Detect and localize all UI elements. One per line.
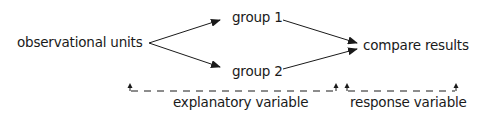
node-group-2: group 2 [232,63,283,79]
arrow-units-to-group2 [149,43,220,67]
node-compare-results: compare results [363,37,469,53]
arrow-units-to-group1 [149,20,220,43]
arrow-group2-to-compare [283,49,357,69]
label-explanatory-variable: explanatory variable [173,94,308,110]
response-bracket [345,83,459,91]
arrow-group1-to-compare [283,20,357,43]
node-observational-units: observational units [17,34,143,50]
label-response-variable: response variable [350,94,467,110]
explanatory-bracket [128,83,339,91]
node-group-1: group 1 [232,9,283,25]
